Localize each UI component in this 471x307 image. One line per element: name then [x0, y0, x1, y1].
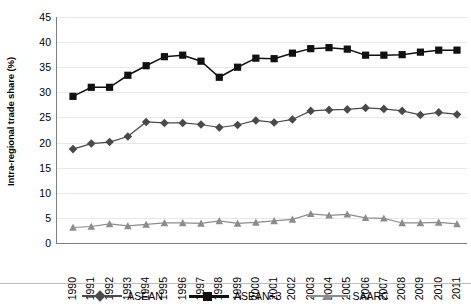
data-point — [343, 105, 352, 114]
diamond-marker-icon — [95, 290, 106, 301]
data-point — [178, 119, 187, 128]
data-point — [325, 44, 332, 51]
data-point — [197, 120, 206, 129]
legend-label: ASEAN+3 — [234, 290, 282, 302]
data-point — [252, 116, 261, 125]
y-tick-label: 45 — [39, 12, 51, 23]
data-point — [69, 93, 76, 100]
legend-item-asean-3[interactable]: ASEAN+3 — [189, 290, 282, 302]
legend-item-saarc[interactable]: SAARC — [308, 290, 389, 302]
data-point — [307, 45, 314, 52]
y-tick-label: 15 — [39, 162, 51, 173]
data-point — [179, 52, 186, 59]
data-point — [69, 145, 78, 154]
legend-swatch — [308, 290, 348, 302]
data-point — [288, 115, 297, 124]
chart-legend: ASEANASEAN+3SAARC — [0, 283, 471, 307]
data-point — [197, 58, 204, 65]
line-chart: Intra-regional trade share (%) 051015202… — [0, 0, 471, 307]
y-tick-label: 0 — [45, 238, 51, 249]
data-point — [105, 138, 114, 147]
series-layer — [57, 17, 467, 243]
series-asean — [69, 104, 462, 154]
legend-item-asean[interactable]: ASEAN — [82, 290, 163, 302]
y-tick-label: 10 — [39, 188, 51, 199]
data-point — [106, 84, 113, 91]
legend-label: ASEAN — [127, 290, 163, 302]
data-point — [362, 52, 369, 59]
plot-area — [56, 17, 467, 244]
data-point — [124, 72, 131, 79]
y-axis-title-label: Intra-regional trade share (%) — [5, 57, 16, 186]
data-point — [435, 47, 442, 54]
y-tick-label: 35 — [39, 62, 51, 73]
data-point — [398, 107, 407, 116]
y-axis-title: Intra-regional trade share (%) — [0, 0, 20, 243]
data-point — [416, 111, 425, 120]
data-point — [234, 64, 241, 71]
data-point — [325, 106, 334, 115]
series-line — [73, 108, 457, 149]
data-point — [417, 49, 424, 56]
data-point — [380, 52, 387, 59]
data-point — [88, 84, 95, 91]
x-axis-tick-labels: 1990199119921993199419951996199719981999… — [56, 244, 466, 280]
data-point — [453, 47, 460, 54]
data-point — [106, 220, 114, 227]
y-axis-tick-labels: 051015202530354045 — [20, 0, 54, 250]
data-point — [216, 74, 223, 81]
data-point — [361, 104, 370, 113]
legend-swatch — [189, 290, 229, 302]
data-point — [380, 105, 389, 114]
data-point — [143, 62, 150, 69]
data-point — [306, 107, 315, 116]
data-point — [344, 46, 351, 53]
data-point — [233, 121, 242, 130]
y-tick-label: 5 — [45, 213, 51, 224]
data-point — [252, 55, 259, 62]
data-point — [289, 50, 296, 57]
data-point — [434, 108, 443, 117]
data-point — [87, 139, 96, 148]
data-point — [399, 51, 406, 58]
legend-swatch — [82, 290, 122, 302]
y-tick-label: 30 — [39, 87, 51, 98]
square-marker-icon — [203, 292, 212, 301]
data-point — [271, 55, 278, 62]
data-point — [453, 110, 462, 119]
y-tick-label: 20 — [39, 137, 51, 148]
data-point — [270, 118, 279, 127]
data-point — [161, 53, 168, 60]
data-point — [215, 217, 223, 224]
series-saarc — [69, 210, 461, 231]
y-tick-label: 40 — [39, 37, 51, 48]
triangle-marker-icon — [322, 292, 332, 300]
legend-label: SAARC — [353, 290, 389, 302]
data-point — [160, 119, 169, 128]
series-asean-3 — [69, 44, 460, 100]
data-point — [215, 123, 224, 132]
y-tick-label: 25 — [39, 112, 51, 123]
